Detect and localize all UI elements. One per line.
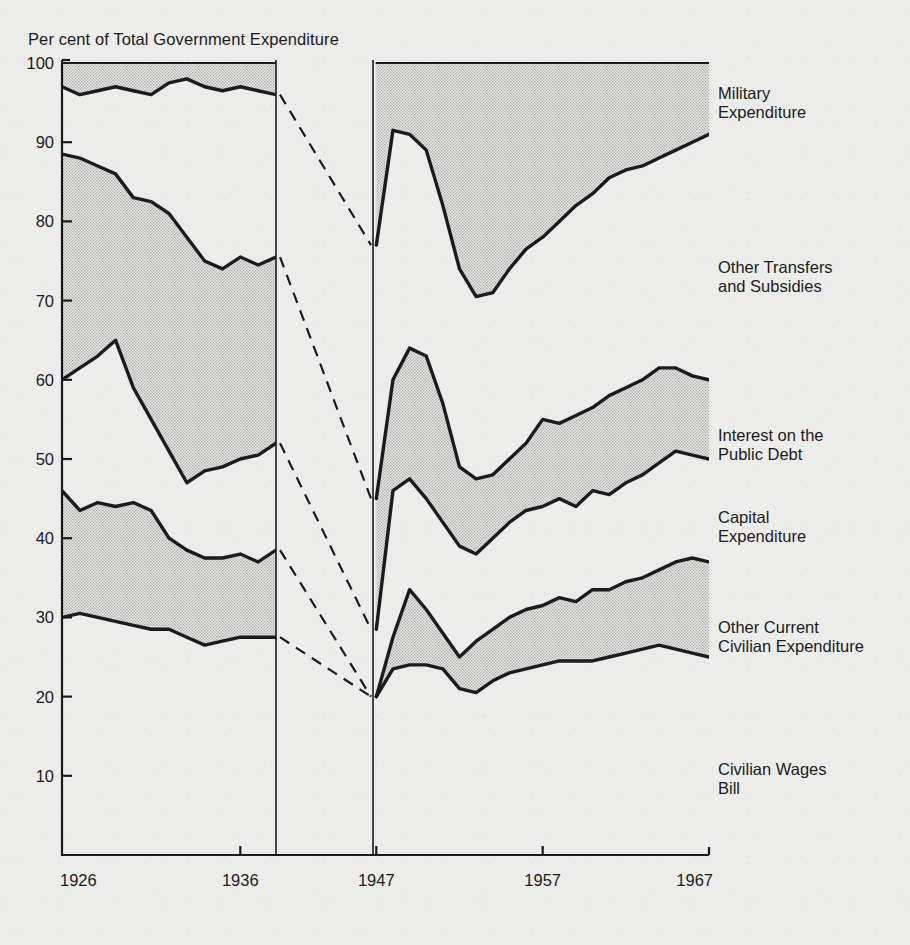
y-axis-tick-label: 40: [36, 529, 54, 547]
y-axis-tick-label: 50: [36, 450, 54, 468]
chart-plot: 102030405060708090100 192619361947195719…: [0, 0, 910, 945]
series-label-military-expenditure: Military Expenditure: [718, 84, 806, 123]
y-axis-tick-label: 20: [36, 688, 54, 706]
gap-connector-lines: [280, 95, 371, 697]
area-band: [376, 558, 709, 697]
y-axis-tick-label: 30: [36, 608, 54, 626]
area-band: [376, 63, 709, 297]
y-axis-tick-label: 10: [36, 767, 54, 785]
connector-line: [280, 637, 371, 696]
series-label-civilian-wages-bill: Civilian Wages Bill: [718, 760, 827, 799]
x-axis-tick-label: 1936: [222, 871, 259, 889]
y-axis-tick-label: 100: [26, 54, 54, 72]
x-axis-tick-label: 1967: [676, 871, 713, 889]
connector-line: [280, 443, 371, 629]
area-band: [62, 154, 276, 483]
series-label-capital-expenditure: Capital Expenditure: [718, 508, 806, 547]
y-axis-tick-label: 70: [36, 292, 54, 310]
series-label-other-current-civilian-expenditure: Other Current Civilian Expenditure: [718, 618, 864, 657]
connector-line: [280, 257, 371, 499]
connector-line: [280, 550, 371, 697]
x-axis-ticks: 19261936194719571967: [60, 846, 713, 889]
y-axis-tick-label: 80: [36, 212, 54, 230]
stacked-area-bands: [62, 63, 709, 697]
x-axis-tick-label: 1926: [60, 871, 97, 889]
area-band: [62, 491, 276, 645]
y-axis-tick-label: 60: [36, 371, 54, 389]
connector-line: [280, 95, 371, 245]
series-label-interest-on-the-public-debt: Interest on the Public Debt: [718, 426, 824, 465]
x-axis-tick-label: 1947: [358, 871, 395, 889]
y-axis-tick-label: 90: [36, 133, 54, 151]
series-label-other-transfers-and-subsidies: Other Transfers and Subsidies: [718, 258, 833, 297]
x-axis-tick-label: 1957: [524, 871, 561, 889]
